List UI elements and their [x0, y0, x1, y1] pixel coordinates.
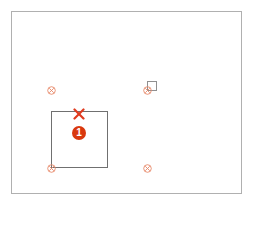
- step-number-badge: 1: [72, 126, 86, 140]
- crosshair-circle-icon[interactable]: [47, 86, 56, 95]
- crosshair-circle-icon[interactable]: [47, 164, 56, 173]
- crosshair-circle-icon[interactable]: [143, 164, 152, 173]
- close-x-icon[interactable]: [73, 106, 85, 118]
- crosshair-circle-icon[interactable]: [143, 86, 152, 95]
